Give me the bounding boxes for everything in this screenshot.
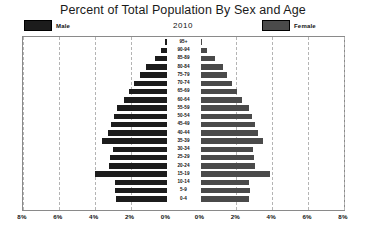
male-bar-cell xyxy=(23,178,167,186)
age-group-label: 30-34 xyxy=(167,147,201,152)
bar-male xyxy=(124,97,166,103)
female-bar-cell xyxy=(201,112,345,120)
male-bar-cell xyxy=(23,38,167,46)
bar-male xyxy=(115,188,166,194)
bar-male xyxy=(110,155,167,161)
age-group-label: 15-19 xyxy=(167,172,201,177)
female-bar-cell xyxy=(201,195,345,203)
age-group-label: 20-24 xyxy=(167,164,201,169)
bar-female xyxy=(201,114,252,120)
bar-male xyxy=(116,196,166,202)
pyramid-row: 20-24 xyxy=(23,162,344,170)
x-axis-tick-label: 4% xyxy=(267,213,276,220)
plot-area: 95+90-9485-8980-8475-7970-7465-6960-6455… xyxy=(22,36,345,211)
bar-female xyxy=(201,81,232,87)
age-group-label: 65-69 xyxy=(167,89,201,94)
bar-female xyxy=(201,130,258,136)
male-bar-cell xyxy=(23,121,167,129)
age-group-label: 90-94 xyxy=(167,48,201,53)
female-bar-cell xyxy=(201,71,345,79)
age-group-label: 80-84 xyxy=(167,65,201,70)
x-axis-tick-label: 6% xyxy=(53,213,62,220)
female-bar-cell xyxy=(201,121,345,129)
x-axis-tick-label: 0% xyxy=(161,213,170,220)
gridline xyxy=(344,37,345,210)
female-bar-cell xyxy=(201,55,345,63)
female-bar-cell xyxy=(201,145,345,153)
male-bar-cell xyxy=(23,145,167,153)
male-bar-cell xyxy=(23,96,167,104)
age-group-label: 40-44 xyxy=(167,131,201,136)
female-bar-cell xyxy=(201,96,345,104)
bar-male xyxy=(140,72,167,78)
male-bar-cell xyxy=(23,104,167,112)
bar-female xyxy=(201,72,228,78)
pyramid-row: 70-74 xyxy=(23,79,344,87)
bar-female xyxy=(201,171,270,177)
age-group-label: 10-14 xyxy=(167,180,201,185)
female-bar-cell xyxy=(201,178,345,186)
bar-female xyxy=(201,147,253,153)
age-group-label: 50-54 xyxy=(167,114,201,119)
bar-female xyxy=(201,163,256,169)
x-axis-tick-label: 2% xyxy=(125,213,134,220)
pyramid-row: 40-44 xyxy=(23,129,344,137)
age-group-label: 0-4 xyxy=(167,197,201,202)
x-axis-tick-label: 0% xyxy=(195,213,204,220)
bar-female xyxy=(201,188,250,194)
pyramid-row: 80-84 xyxy=(23,63,344,71)
pyramid-row: 45-49 xyxy=(23,121,344,129)
pyramid-row: 25-29 xyxy=(23,154,344,162)
female-bar-cell xyxy=(201,129,345,137)
bar-male xyxy=(109,163,166,169)
male-bar-cell xyxy=(23,187,167,195)
bar-male xyxy=(155,56,167,62)
male-bar-cell xyxy=(23,195,167,203)
year-label: 2010 xyxy=(0,21,366,30)
pyramid-row: 35-39 xyxy=(23,137,344,145)
male-bar-cell xyxy=(23,137,167,145)
bar-male xyxy=(108,130,166,136)
female-bar-cell xyxy=(201,170,345,178)
bar-male xyxy=(111,122,167,128)
pyramid-row: 50-54 xyxy=(23,112,344,120)
male-bar-cell xyxy=(23,55,167,63)
male-bar-cell xyxy=(23,112,167,120)
bar-female xyxy=(201,122,256,128)
bar-male xyxy=(102,138,167,144)
pyramid-row: 55-59 xyxy=(23,104,344,112)
pyramid-row: 30-34 xyxy=(23,145,344,153)
x-axis-tick-label: 2% xyxy=(231,213,240,220)
x-axis-ticks: 8%6%4%2%0%0%2%4%6%8% xyxy=(22,213,345,227)
pyramid-row: 0-4 xyxy=(23,195,344,203)
age-group-label: 95+ xyxy=(167,40,201,45)
population-pyramid-chart: Percent of Total Population By Sex and A… xyxy=(0,0,366,234)
pyramid-rows: 95+90-9485-8980-8475-7970-7465-6960-6455… xyxy=(23,37,344,210)
bar-male xyxy=(114,114,166,120)
bar-male xyxy=(115,180,166,186)
age-group-label: 25-29 xyxy=(167,155,201,160)
female-bar-cell xyxy=(201,187,345,195)
x-axis-tick-label: 6% xyxy=(302,213,311,220)
bar-male xyxy=(129,89,167,95)
bar-male xyxy=(134,81,166,87)
age-group-label: 55-59 xyxy=(167,106,201,111)
age-group-label: 35-39 xyxy=(167,139,201,144)
pyramid-row: 65-69 xyxy=(23,88,344,96)
male-bar-cell xyxy=(23,71,167,79)
male-bar-cell xyxy=(23,46,167,54)
bar-female xyxy=(201,196,249,202)
bar-female xyxy=(201,64,223,70)
pyramid-row: 15-19 xyxy=(23,170,344,178)
pyramid-row: 85-89 xyxy=(23,55,344,63)
bar-female xyxy=(201,138,264,144)
bar-female xyxy=(201,155,255,161)
female-bar-cell xyxy=(201,154,345,162)
bar-male xyxy=(113,147,167,153)
female-bar-cell xyxy=(201,137,345,145)
pyramid-row: 10-14 xyxy=(23,178,344,186)
male-bar-cell xyxy=(23,129,167,137)
pyramid-row: 5-9 xyxy=(23,187,344,195)
bar-female xyxy=(201,97,242,103)
bar-male xyxy=(146,64,167,70)
